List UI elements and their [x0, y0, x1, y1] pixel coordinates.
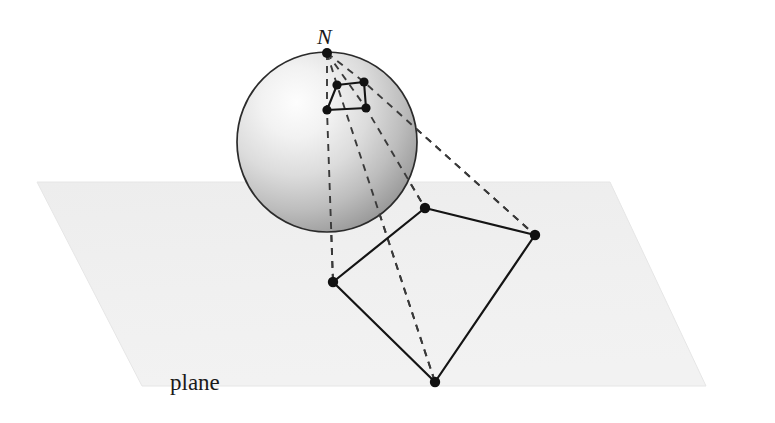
sphere-quad-vertex-1: [359, 77, 368, 86]
plane-quad-vertex-0: [420, 203, 430, 213]
plane-quad-vertex-3: [328, 277, 338, 287]
figure-canvas: N plane: [0, 0, 775, 423]
stereographic-projection-diagram: [0, 0, 775, 423]
plane-quad-vertex-1: [530, 230, 540, 240]
sphere-quad-vertex-3: [322, 105, 331, 114]
north-pole-point: [322, 48, 332, 58]
plane-quad-vertex-2: [430, 377, 440, 387]
north-pole-label: N: [317, 26, 332, 48]
sphere-quad-vertex-0: [332, 80, 341, 89]
sphere-quad-vertex-2: [361, 103, 370, 112]
plane-label: plane: [170, 371, 220, 394]
